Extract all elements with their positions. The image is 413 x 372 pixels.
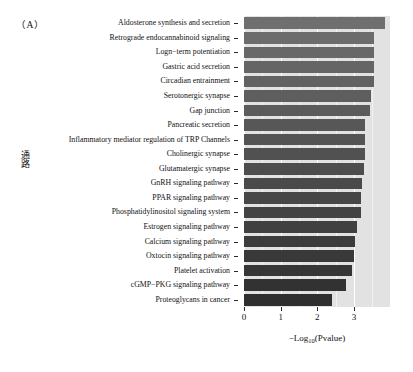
bar [244, 265, 352, 277]
x-axis-ticks: 0123 [244, 307, 390, 312]
x-tick-mark [244, 307, 245, 311]
bar [244, 250, 354, 262]
y-tick-mark [234, 198, 238, 199]
y-tick-label: GnRH signaling pathway [151, 178, 230, 187]
x-tick-mark [317, 307, 318, 311]
bar-row [244, 178, 390, 190]
bar [244, 148, 365, 160]
bar-row [244, 221, 390, 233]
y-tick-label: cGMP−PKG signaling pathway [131, 280, 230, 289]
y-tick-mark [234, 256, 238, 257]
plot-panel [244, 16, 390, 307]
y-tick-mark [234, 300, 238, 301]
bar [244, 163, 364, 175]
y-tick-mark [234, 271, 238, 272]
y-tick-label: Estrogen signaling pathway [143, 222, 230, 231]
bar [244, 279, 346, 291]
y-tick-mark [234, 212, 238, 213]
y-tick-mark [234, 52, 238, 53]
kegg-pathway-bar-chart: （A） 通路 Aldosterone synthesis and secreti… [0, 0, 413, 372]
bar-row [244, 76, 390, 88]
bar-row [244, 134, 390, 146]
y-tick-mark [234, 111, 238, 112]
bar-row [244, 294, 390, 306]
bar [244, 105, 370, 117]
bar [244, 294, 332, 306]
x-tick-label: 2 [315, 312, 320, 322]
y-tick-label: Serotonergic synapse [164, 91, 230, 100]
bar [244, 76, 374, 88]
y-tick-label: Calcium signaling pathway [145, 237, 230, 246]
y-tick-label: Platelet activation [174, 266, 230, 275]
x-tick-mark [354, 307, 355, 311]
bar [244, 221, 357, 233]
bar [244, 90, 371, 102]
bar [244, 236, 355, 248]
y-tick-mark [234, 183, 238, 184]
y-tick-mark [234, 67, 238, 68]
bar-row [244, 61, 390, 73]
bar-row [244, 148, 390, 160]
y-tick-mark [234, 125, 238, 126]
y-tick-label: Logn−term potentiation [156, 47, 230, 56]
y-tick-mark [234, 23, 238, 24]
x-axis-title: −Log10(Pvalue) [244, 333, 390, 343]
y-tick-label: Gap junction [190, 106, 231, 115]
gridline-major [281, 16, 282, 307]
bar [244, 192, 361, 204]
gridline-major [244, 16, 245, 307]
x-axis-title-subscript: 10 [308, 337, 315, 344]
bar-row [244, 236, 390, 248]
x-tick-mark [281, 307, 282, 311]
y-tick-label: Pancreatic secretion [167, 120, 230, 129]
bar-row [244, 192, 390, 204]
bar [244, 47, 374, 59]
bar-row [244, 279, 390, 291]
y-tick-label: Cholinergic synapse [167, 149, 230, 158]
y-tick-label: Aldosterone synthesis and secretion [118, 18, 230, 27]
bar-row [244, 47, 390, 59]
bar-row [244, 119, 390, 131]
gridline-minor [372, 16, 373, 307]
bar [244, 32, 374, 44]
x-axis-title-prefix: −Log [289, 333, 309, 343]
gridline-minor [336, 16, 337, 307]
bar-row [244, 105, 390, 117]
y-tick-label: Retrograde endocannabinoid signaling [110, 33, 230, 42]
y-tick-mark [234, 285, 238, 286]
bar [244, 207, 361, 219]
bar [244, 61, 374, 73]
y-tick-label: Oxtocin signaling pathway [146, 251, 230, 260]
bar [244, 119, 365, 131]
y-tick-mark [234, 154, 238, 155]
y-tick-label: Phosphatidylinositol signaling system [112, 207, 230, 216]
y-tick-label: Circadian entrainment [161, 76, 231, 85]
y-tick-mark [234, 140, 238, 141]
gridline-minor [299, 16, 300, 307]
y-tick-label: PPAR signaling pathway [152, 193, 230, 202]
gridline-major [317, 16, 318, 307]
bar-row [244, 32, 390, 44]
bar-row [244, 250, 390, 262]
y-tick-label: Gastric acid secretion [162, 62, 230, 71]
x-tick-label: 3 [352, 312, 357, 322]
y-tick-label: Inflammatory mediator regulation of TRP … [69, 135, 230, 144]
x-tick-label: 1 [278, 312, 283, 322]
x-axis-title-suffix: (Pvalue) [315, 333, 346, 343]
y-tick-label: Proteoglycans in cancer [156, 295, 230, 304]
bar-row [244, 207, 390, 219]
bar-row [244, 90, 390, 102]
bar [244, 17, 385, 29]
bar [244, 178, 362, 190]
y-tick-mark [234, 81, 238, 82]
bar-row [244, 265, 390, 277]
y-tick-mark [234, 96, 238, 97]
bar-row [244, 17, 390, 29]
y-axis-category-labels: Aldosterone synthesis and secretionRetro… [0, 16, 238, 307]
gridline-minor [262, 16, 263, 307]
x-tick-label: 0 [242, 312, 247, 322]
bar-row [244, 163, 390, 175]
gridline-major [354, 16, 355, 307]
y-tick-mark [234, 169, 238, 170]
y-tick-mark [234, 227, 238, 228]
